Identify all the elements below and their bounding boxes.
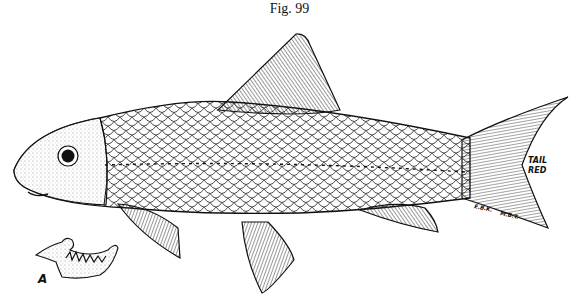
tail-note-line2: RED xyxy=(528,166,547,175)
tail-note-line1: TAIL xyxy=(528,156,547,165)
inset-jaw-bone xyxy=(36,238,118,278)
anal-fin xyxy=(360,204,438,232)
pelvic-fin xyxy=(242,222,294,293)
fish-illustration: TAIL RED E.B.K. M.B.T. A xyxy=(0,0,579,302)
inset-label: A xyxy=(37,272,47,286)
pectoral-fin xyxy=(118,204,180,258)
